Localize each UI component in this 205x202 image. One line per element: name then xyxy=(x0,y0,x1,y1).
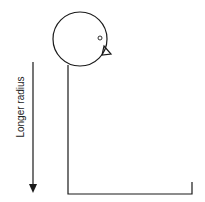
eye-icon xyxy=(98,36,102,40)
pendulum-rod xyxy=(68,65,192,194)
pendulum-diagram xyxy=(0,0,205,202)
down-arrow-icon xyxy=(29,62,37,193)
bird-head xyxy=(53,12,111,66)
arrow-label: Longer radius xyxy=(15,76,26,137)
